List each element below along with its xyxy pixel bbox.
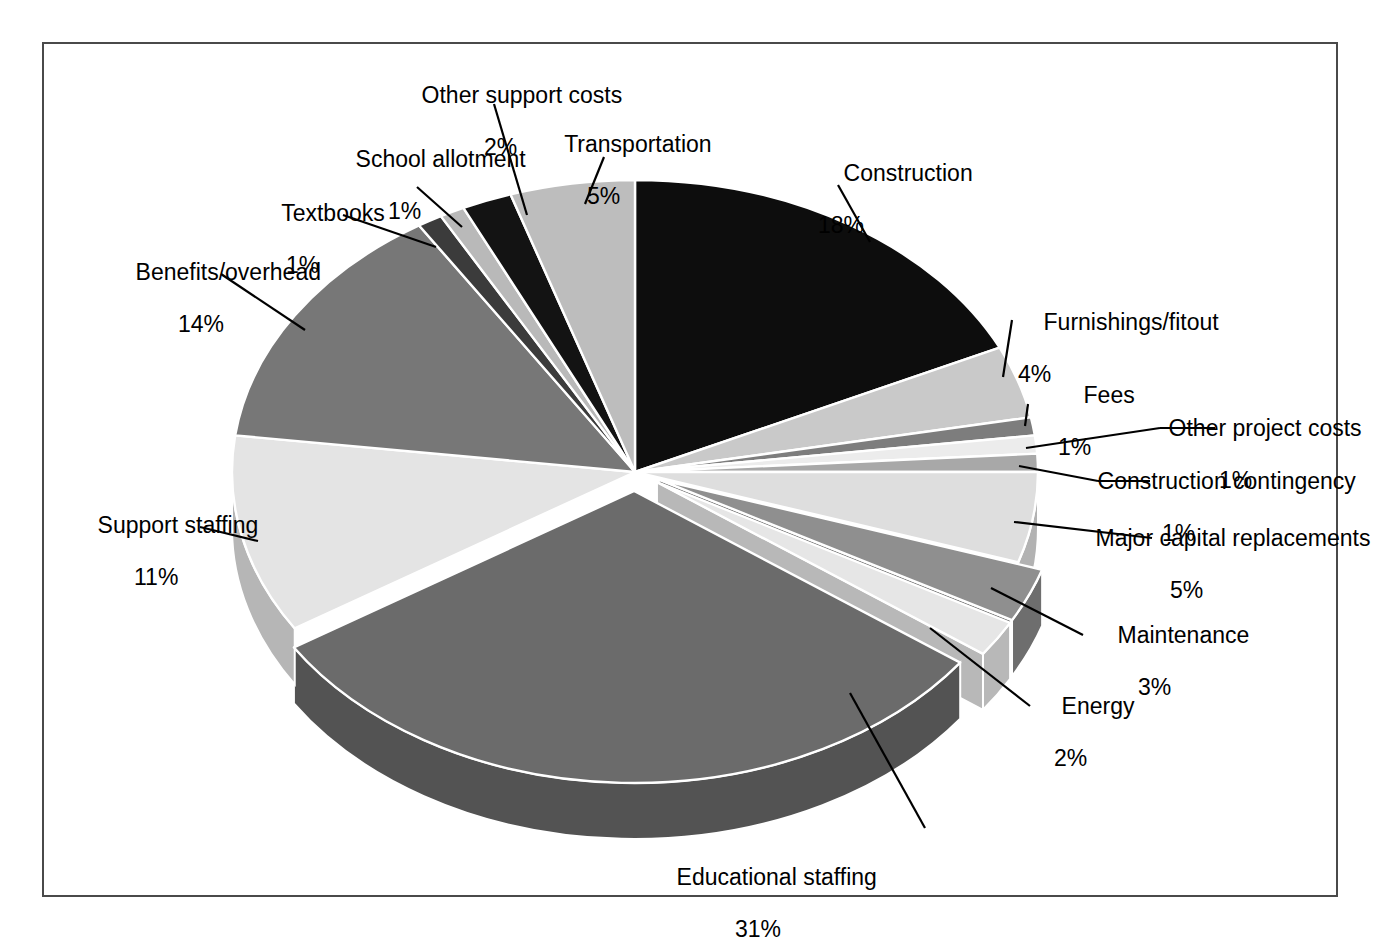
- label-support-staffing-name: Support staffing: [98, 512, 259, 538]
- label-energy-name: Energy: [1062, 693, 1135, 719]
- label-construction-pct: 18%: [818, 212, 973, 238]
- label-construction: Construction 18%: [818, 134, 973, 290]
- label-educational-staffing: Educational staffing 31%: [651, 838, 877, 941]
- label-transportation: Transportation 5%: [539, 105, 712, 261]
- label-furnishings-name: Furnishings/fitout: [1044, 309, 1219, 335]
- label-support-staffing-pct: 11%: [72, 564, 258, 590]
- label-fees-name: Fees: [1084, 382, 1135, 408]
- label-transportation-name: Transportation: [564, 131, 711, 157]
- label-construction-name: Construction: [844, 160, 973, 186]
- label-energy-pct: 2%: [1036, 745, 1134, 771]
- label-maintenance-name: Maintenance: [1118, 622, 1250, 648]
- label-support-staffing: Support staffing 11%: [72, 486, 258, 642]
- label-educational-staffing-name: Educational staffing: [677, 864, 877, 890]
- label-energy: Energy 2%: [1036, 667, 1134, 823]
- label-other-project-costs-name: Other project costs: [1169, 415, 1362, 441]
- label-transportation-pct: 5%: [539, 183, 712, 209]
- label-major-capital-name: Major capital replacements: [1096, 525, 1371, 551]
- label-educational-staffing-pct: 31%: [651, 916, 877, 941]
- label-construction-contingency-name: Construction contingency: [1098, 468, 1356, 494]
